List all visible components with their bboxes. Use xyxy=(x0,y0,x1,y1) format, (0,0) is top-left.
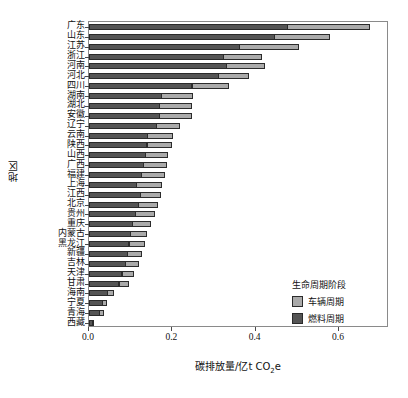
bar-segment-vehicle-cycle xyxy=(147,142,172,148)
y-axis-tick xyxy=(85,323,89,324)
bar-row xyxy=(89,300,107,306)
bar-segment-fuel-cycle xyxy=(89,83,192,89)
bar-segment-fuel-cycle xyxy=(89,113,160,119)
bar-segment-vehicle-cycle xyxy=(159,113,192,119)
bar-segment-vehicle-cycle xyxy=(102,300,107,306)
bar-row xyxy=(89,73,249,79)
y-axis-tick-label: 江苏 xyxy=(67,41,85,50)
bar-segment-vehicle-cycle xyxy=(92,320,94,326)
bar-row xyxy=(89,83,229,89)
bar-row xyxy=(89,44,299,50)
y-axis-tick-label: 山西 xyxy=(67,150,85,159)
bar-row xyxy=(89,172,165,178)
bar-segment-fuel-cycle xyxy=(89,202,139,208)
legend-swatch-vehicle-cycle xyxy=(292,296,303,307)
y-axis-tick-label: 重庆 xyxy=(67,219,85,228)
bar-segment-vehicle-cycle xyxy=(161,93,193,99)
y-axis-tick-label: 吉林 xyxy=(67,258,85,267)
y-axis-tick xyxy=(85,165,89,166)
bar-row xyxy=(89,281,129,287)
y-axis-tick-label: 浙江 xyxy=(67,51,85,60)
y-axis-tick-label: 内蒙古 xyxy=(58,229,85,238)
bar-segment-vehicle-cycle xyxy=(274,34,330,40)
y-axis-tick xyxy=(85,136,89,137)
y-axis-tick-label: 甘肃 xyxy=(67,278,85,287)
bar-segment-vehicle-cycle xyxy=(122,271,134,277)
bar-row xyxy=(89,93,193,99)
bar-segment-vehicle-cycle xyxy=(218,73,249,79)
legend-item-fuel-cycle[interactable]: 燃料周期 xyxy=(292,312,388,325)
y-axis-tick xyxy=(85,293,89,294)
bar-segment-fuel-cycle xyxy=(89,251,128,257)
bar-row xyxy=(89,162,167,168)
bar-segment-vehicle-cycle xyxy=(132,221,151,227)
bar-segment-vehicle-cycle xyxy=(125,261,139,267)
y-axis-tick-label: 贵州 xyxy=(67,209,85,218)
bar-row xyxy=(89,251,142,257)
y-axis-tick xyxy=(85,37,89,38)
bar-segment-fuel-cycle xyxy=(89,44,240,50)
y-axis-tick xyxy=(85,214,89,215)
bar-segment-fuel-cycle xyxy=(89,231,131,237)
bar-row xyxy=(89,54,262,60)
bar-segment-fuel-cycle xyxy=(89,24,288,30)
bar-segment-fuel-cycle xyxy=(89,152,146,158)
y-axis-tick-label: 海南 xyxy=(67,288,85,297)
y-axis-tick xyxy=(85,155,89,156)
x-axis-tick-label: 0.2 xyxy=(165,332,177,342)
bar-segment-vehicle-cycle xyxy=(147,133,173,139)
bar-row xyxy=(89,241,145,247)
bar-segment-fuel-cycle xyxy=(89,123,157,129)
chart-figure: 地区 广东山东江苏浙江河南河北四川湖南湖北安徽辽宁云南陕西山西广西福建上海江西北… xyxy=(0,0,408,398)
y-axis-tick xyxy=(85,175,89,176)
legend-label-vehicle-cycle: 车辆周期 xyxy=(308,295,344,308)
y-axis-tick-label: 广西 xyxy=(67,160,85,169)
y-axis-tick xyxy=(85,66,89,67)
bar-row xyxy=(89,320,94,326)
y-axis-tick xyxy=(85,185,89,186)
legend: 生命周期阶段 车辆周期 燃料周期 xyxy=(292,278,388,329)
y-axis-tick xyxy=(85,244,89,245)
bar-segment-vehicle-cycle xyxy=(140,192,161,198)
bar-segment-fuel-cycle xyxy=(89,172,142,178)
bar-segment-vehicle-cycle xyxy=(127,251,142,257)
y-axis-tick-label: 云南 xyxy=(67,130,85,139)
bar-segment-vehicle-cycle xyxy=(99,310,103,316)
y-axis-tick xyxy=(85,86,89,87)
bar-segment-vehicle-cycle xyxy=(156,123,180,129)
y-axis-tick xyxy=(85,57,89,58)
y-axis-tick-label: 宁夏 xyxy=(67,298,85,307)
y-axis-tick-label: 北京 xyxy=(67,199,85,208)
x-axis-tick xyxy=(171,327,172,331)
y-axis-tick-label: 上海 xyxy=(67,179,85,188)
y-axis-tick xyxy=(85,224,89,225)
y-axis-tick xyxy=(85,303,89,304)
bar-segment-vehicle-cycle xyxy=(141,172,165,178)
y-axis-tick xyxy=(85,116,89,117)
bar-row xyxy=(89,113,192,119)
x-axis-title: 碳排放量/亿t CO2e xyxy=(88,358,388,375)
bar-segment-vehicle-cycle xyxy=(107,290,114,296)
bar-segment-fuel-cycle xyxy=(89,261,126,267)
x-axis-title-tail: e xyxy=(275,361,281,372)
y-axis-tick xyxy=(85,27,89,28)
bar-row xyxy=(89,211,155,217)
bar-segment-fuel-cycle xyxy=(89,300,103,306)
bar-segment-vehicle-cycle xyxy=(159,103,192,109)
y-axis-tick-label: 四川 xyxy=(67,81,85,90)
bar-segment-vehicle-cycle xyxy=(239,44,298,50)
y-axis-tick xyxy=(85,126,89,127)
bar-segment-fuel-cycle xyxy=(89,34,275,40)
x-axis-tick-label: 0.0 xyxy=(82,332,94,342)
x-axis-title-main: 碳排放量/亿t CO xyxy=(195,361,270,372)
bar-segment-fuel-cycle xyxy=(89,192,141,198)
bar-row xyxy=(89,192,161,198)
y-axis-tick-label: 河北 xyxy=(67,71,85,80)
y-axis-tick xyxy=(85,76,89,77)
bar-segment-fuel-cycle xyxy=(89,281,119,287)
y-axis-tick-label: 陕西 xyxy=(67,140,85,149)
y-axis-tick-label: 江西 xyxy=(67,189,85,198)
y-axis-tick-label: 辽宁 xyxy=(67,120,85,129)
legend-item-vehicle-cycle[interactable]: 车辆周期 xyxy=(292,295,388,308)
bar-row xyxy=(89,142,172,148)
